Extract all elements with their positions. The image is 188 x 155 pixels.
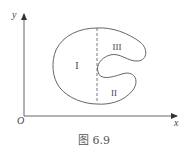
region-label-III: III <box>113 42 122 52</box>
region-boundary <box>53 28 146 104</box>
y-axis-label: y <box>11 9 17 20</box>
region-label-II: II <box>111 88 117 98</box>
x-axis-label: x <box>173 117 179 128</box>
region-label-I: I <box>75 60 78 71</box>
figure-caption: 图 6.9 <box>0 131 188 147</box>
origin-label: O <box>17 115 24 126</box>
